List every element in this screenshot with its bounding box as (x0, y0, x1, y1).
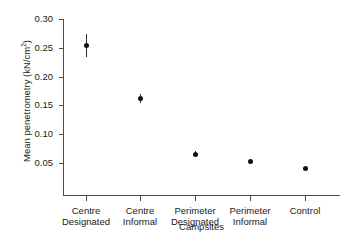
plot-area: 0.30 0.25 0.20 0.15 0.10 0.05 Centre Des… (63, 19, 340, 196)
chart-figure: Mean penetrometry (kN/cm2) 0.30 0.25 0.2… (0, 0, 348, 250)
x-tick-label-line1: Control (262, 205, 348, 216)
y-axis-title-text: Mean penetrometry (kN/cm (21, 47, 32, 162)
y-axis-title-tail: ) (21, 40, 32, 43)
y-tick: 0.20 (59, 77, 64, 78)
x-axis-title: Campsites (63, 221, 340, 233)
y-tick-label: 0.25 (35, 43, 54, 53)
y-tick: 0.05 (59, 163, 64, 164)
y-tick: 0.30 (59, 19, 64, 20)
y-tick-label: 0.20 (35, 72, 54, 82)
y-axis-title-superscript: 2 (20, 43, 27, 47)
y-tick-label: 0.10 (35, 129, 54, 139)
data-point (193, 152, 198, 157)
y-axis-title: Mean penetrometry (kN/cm2) (20, 6, 34, 196)
y-tick-label: 0.05 (35, 158, 54, 168)
x-axis-line (63, 195, 340, 196)
y-tick: 0.15 (59, 105, 64, 106)
y-tick-label: 0.30 (35, 14, 54, 24)
y-tick: 0.10 (59, 134, 64, 135)
y-tick-label: 0.15 (35, 100, 54, 110)
data-point (248, 159, 253, 164)
data-point (138, 96, 143, 101)
x-tick (195, 196, 196, 201)
x-tick (250, 196, 251, 201)
x-tick-label-control: Control (262, 205, 348, 216)
y-axis-line (63, 19, 64, 196)
data-point (84, 43, 89, 48)
data-point (303, 166, 308, 171)
x-tick (140, 196, 141, 201)
x-tick (86, 196, 87, 201)
y-tick: 0.25 (59, 48, 64, 49)
x-tick (305, 196, 306, 201)
